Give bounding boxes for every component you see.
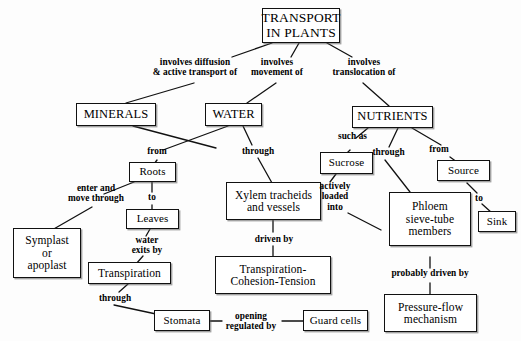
edge-transport-minerals-label [232,43,272,57]
link-label-involves-translocation: involves translocation of [329,57,399,78]
link-label-opening-regulated-by: opening regulated by [215,311,287,332]
edge-transport-water-label [291,43,299,57]
node-leaves[interactable]: Leaves [126,209,179,229]
edge-translocation-label-nutrients [363,83,389,106]
node-transpiration[interactable]: Transpiration [88,262,171,284]
node-guard-cells[interactable]: Guard cells [303,310,368,331]
link-label-from-roots: from [138,146,176,156]
link-label-to-leaves: to [138,192,166,202]
node-xylem-tracheids-and-vessels[interactable]: Xylem tracheids and vessels [226,182,321,220]
link-label-from-source: from [422,144,456,154]
edge-water-through [243,126,252,145]
edge-transport-nutrients-label [327,43,352,57]
link-label-probably-driven-by: probably driven by [378,268,482,278]
link-label-such-as: such as [330,131,375,141]
edge-nutrients-through [389,128,398,147]
link-label-involves-movement: involves movement of [246,57,308,78]
edge-actively-phloem [348,213,381,230]
link-label-actively-loaded-into: actively loaded into [312,181,358,212]
node-stomata[interactable]: Stomata [154,310,210,331]
link-label-water-exits-by: water exits by [122,235,172,256]
edge-diffusion-label-minerals [126,83,194,103]
concept-map-canvas: TRANSPORT IN PLANTS involves diffusion &… [0,0,521,341]
node-nutrients[interactable]: NUTRIENTS [352,106,433,128]
node-transport-in-plants[interactable]: TRANSPORT IN PLANTS [262,8,340,43]
link-label-enter-and-move-through: enter and move through [58,183,134,204]
node-minerals[interactable]: MINERALS [76,103,156,126]
edge-transpiration-through [119,284,128,292]
node-roots[interactable]: Roots [129,162,176,182]
edge-through-stomata [114,305,156,314]
node-phloem-sieve-tube-members[interactable]: Phloem sieve-tube members [389,192,471,246]
edge-movement-label-water [247,83,276,103]
link-label-through-phloem: through [365,147,412,157]
edge-through-xylem [258,158,272,183]
link-label-through-stomata: through [90,293,140,303]
node-transpiration-cohesion-tension[interactable]: Transpiration- Cohesion-Tension [215,256,331,294]
node-symplast-or-apoplast[interactable]: Symplast or apoplast [13,228,81,278]
edge-enter-label-symplast [52,207,92,230]
edge-through-phloem [385,160,410,192]
link-label-involves-diffusion: involves diffusion & active transport of [146,57,244,78]
node-water[interactable]: WATER [205,103,262,126]
node-source[interactable]: Source [437,160,490,181]
link-label-driven-by: driven by [246,234,302,244]
edge-nutrients-from [412,128,441,145]
node-pressure-flow-mechanism[interactable]: Pressure-flow mechanism [384,294,477,332]
link-label-through-xylem: through [231,146,285,156]
edge-minerals-through [133,126,216,148]
node-sink[interactable]: Sink [478,211,516,232]
